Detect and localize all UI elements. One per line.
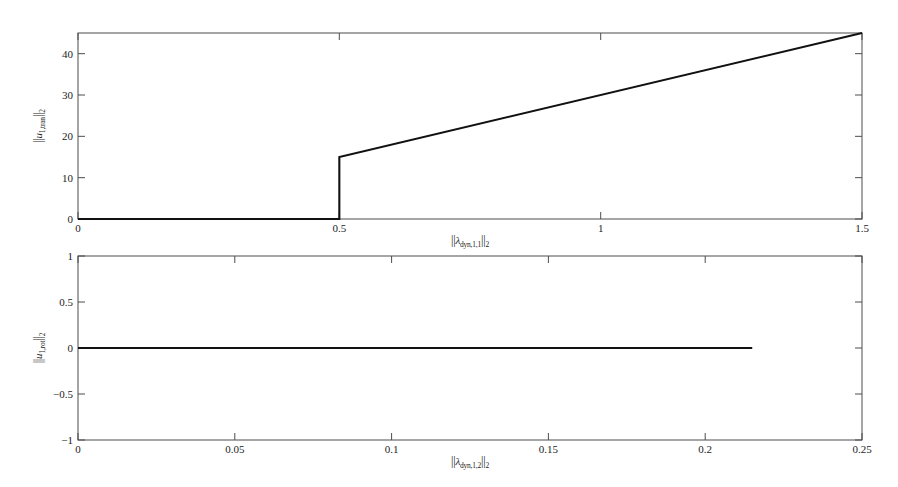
top-xtick-0: 0 <box>75 223 81 234</box>
bottom-plot-panel: 1 0.5 0 −0.5 −1 0 0.05 0.1 0.15 0.2 0.25… <box>0 250 898 487</box>
top-x-axis-title-text: ||λdyn,1,1||2 <box>451 234 489 246</box>
bottom-ytick-0: 0 <box>49 343 73 354</box>
bottom-xtick-0p1: 0.1 <box>385 444 399 455</box>
figure-container: 0 10 20 30 40 0 0.5 1 1.5 ||u1,tran||2 |… <box>0 0 898 487</box>
bottom-xtick-0: 0 <box>75 444 81 455</box>
bottom-ytick-0p5: 0.5 <box>43 297 73 308</box>
bottom-ytick-neg1: −1 <box>45 435 73 446</box>
top-ytick-40: 40 <box>49 48 73 59</box>
top-y-tick-marks <box>78 54 862 219</box>
top-xtick-0p5: 0.5 <box>332 223 346 234</box>
top-y-axis-title-text: ||u1,tran||2 <box>32 109 44 143</box>
bottom-ytick-neg0p5: −0.5 <box>39 389 73 400</box>
top-plot-panel: 0 10 20 30 40 0 0.5 1 1.5 ||u1,tran||2 |… <box>0 0 898 250</box>
bottom-ytick-1: 1 <box>49 251 73 262</box>
bottom-xtick-0p05: 0.05 <box>225 444 244 455</box>
bottom-x-axis-title: ||λdyn,1,2||2 <box>451 455 489 467</box>
top-x-axis-title: ||λdyn,1,1||2 <box>451 234 489 246</box>
bottom-y-axis-title: ||u1,rot||2 <box>32 333 44 364</box>
top-y-axis-title: ||u1,tran||2 <box>32 109 44 143</box>
top-ytick-0: 0 <box>55 214 73 225</box>
bottom-xtick-0p15: 0.15 <box>539 444 558 455</box>
top-xtick-1: 1 <box>598 223 604 234</box>
top-ytick-20: 20 <box>49 131 73 142</box>
top-xtick-1p5: 1.5 <box>855 223 869 234</box>
bottom-xtick-0p2: 0.2 <box>698 444 712 455</box>
bottom-x-axis-title-text: ||λdyn,1,2||2 <box>451 455 489 467</box>
bottom-xtick-0p25: 0.25 <box>852 444 871 455</box>
bottom-y-axis-title-text: ||u1,rot||2 <box>32 333 44 364</box>
top-ytick-10: 10 <box>49 172 73 183</box>
top-plot-svg <box>0 0 898 250</box>
top-data-series <box>78 33 862 219</box>
top-ytick-30: 30 <box>49 90 73 101</box>
bottom-plot-svg <box>0 250 898 487</box>
